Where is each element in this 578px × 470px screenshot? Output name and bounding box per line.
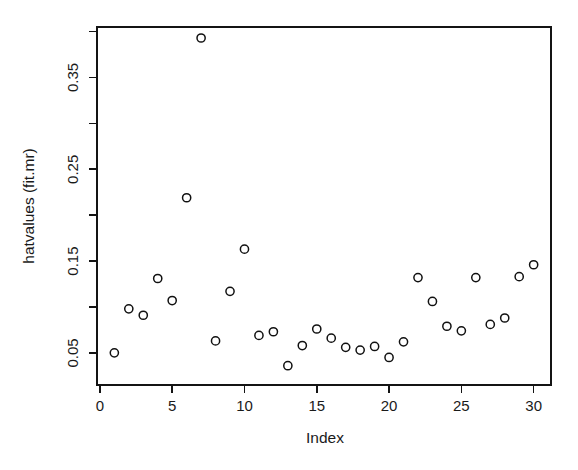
data-point	[154, 274, 162, 282]
x-tick-label: 0	[96, 397, 104, 414]
data-point	[501, 314, 509, 322]
x-axis-ticks	[100, 385, 534, 393]
data-point	[298, 341, 306, 349]
data-point	[125, 305, 133, 313]
data-point	[443, 322, 451, 330]
x-tick-label: 25	[453, 397, 470, 414]
x-axis-title: Index	[306, 429, 344, 446]
y-tick-label: 0.15	[64, 246, 81, 275]
data-point	[197, 34, 205, 42]
data-point	[284, 362, 292, 370]
x-tick-label: 20	[381, 397, 398, 414]
data-point	[327, 334, 335, 342]
data-point	[110, 349, 118, 357]
data-point	[457, 327, 465, 335]
x-tick-label: 30	[525, 397, 542, 414]
data-point	[530, 261, 538, 269]
y-tick-label: 0.35	[64, 63, 81, 92]
data-point	[414, 274, 422, 282]
data-point	[211, 337, 219, 345]
data-point	[255, 331, 263, 339]
data-point	[472, 274, 480, 282]
data-point	[428, 297, 436, 305]
y-axis-tick-labels: 0.050.150.250.35	[64, 63, 81, 368]
x-tick-label: 5	[168, 397, 176, 414]
data-point	[342, 343, 350, 351]
x-axis-tick-labels: 051015202530	[96, 397, 542, 414]
y-tick-label: 0.05	[64, 338, 81, 367]
data-point	[313, 325, 321, 333]
y-tick-label: 0.25	[64, 155, 81, 184]
scatter-plot-figure: 0.050.150.250.35 051015202530 Index hatv…	[0, 0, 578, 470]
plot-canvas: 0.050.150.250.35 051015202530 Index hatv…	[0, 0, 578, 470]
x-tick-label: 10	[236, 397, 253, 414]
data-point	[226, 287, 234, 295]
data-point	[399, 338, 407, 346]
data-point	[371, 342, 379, 350]
x-tick-label: 15	[308, 397, 325, 414]
y-axis-ticks	[89, 32, 97, 353]
data-point	[385, 353, 393, 361]
data-point	[486, 320, 494, 328]
data-point	[356, 346, 364, 354]
y-axis-title: hatvalues (fit.mr)	[20, 148, 37, 263]
data-point	[139, 311, 147, 319]
data-point	[240, 245, 248, 253]
data-point	[515, 273, 523, 281]
data-point	[168, 296, 176, 304]
data-point	[183, 194, 191, 202]
data-point-series	[110, 34, 538, 370]
data-point	[269, 328, 277, 336]
plot-frame	[97, 27, 551, 385]
